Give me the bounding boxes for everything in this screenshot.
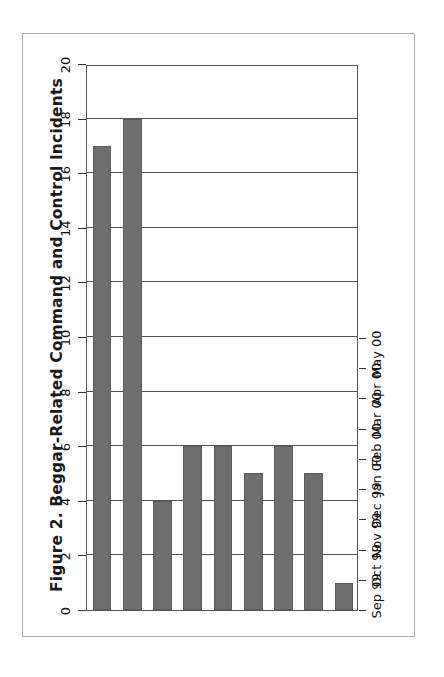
category-axis-tick bbox=[359, 519, 366, 520]
bar bbox=[123, 119, 142, 610]
bar bbox=[274, 446, 293, 610]
value-axis-tick bbox=[78, 64, 86, 65]
value-axis-tick bbox=[78, 282, 86, 283]
value-axis-label: 4 bbox=[58, 498, 73, 506]
category-axis-tick bbox=[359, 368, 366, 369]
value-axis-label: 2 bbox=[58, 552, 73, 560]
value-axis-tick bbox=[78, 119, 86, 120]
chart-canvas: Figure 2. Beggar-Related Command and Con… bbox=[22, 33, 415, 637]
value-axis-tick bbox=[78, 610, 86, 611]
value-axis-label: 16 bbox=[58, 166, 73, 183]
value-axis-tick bbox=[78, 392, 86, 393]
bar bbox=[93, 146, 112, 610]
value-axis-tick bbox=[78, 501, 86, 502]
category-axis-tick bbox=[359, 398, 366, 399]
value-axis-tick bbox=[78, 337, 86, 338]
value-axis-label: 20 bbox=[58, 57, 73, 74]
category-axis-tick bbox=[359, 459, 366, 460]
category-axis-tick bbox=[359, 580, 366, 581]
category-axis: Sep 99Oct 99Nov 99Dec 99Jan 00Feb 00Mar … bbox=[359, 65, 393, 611]
category-axis-tick bbox=[359, 338, 366, 339]
bar bbox=[244, 474, 263, 611]
plot-area bbox=[86, 65, 358, 611]
category-axis-label: May 00 bbox=[369, 330, 384, 378]
value-axis: 20181614121086420 bbox=[66, 65, 88, 611]
figure-container: Figure 2. Beggar-Related Command and Con… bbox=[0, 0, 444, 677]
bar bbox=[214, 446, 233, 610]
category-axis-tick bbox=[359, 550, 366, 551]
category-axis-tick bbox=[359, 429, 366, 430]
value-axis-label: 10 bbox=[58, 330, 73, 347]
value-axis-label: 0 bbox=[58, 607, 73, 615]
bar bbox=[335, 583, 354, 610]
bar bbox=[153, 501, 172, 610]
bar bbox=[304, 474, 323, 611]
category-axis-tick bbox=[359, 610, 366, 611]
value-axis-tick bbox=[78, 446, 86, 447]
bar bbox=[183, 446, 202, 610]
value-axis-label: 14 bbox=[58, 221, 73, 238]
rotated-chart-stage: Figure 2. Beggar-Related Command and Con… bbox=[22, 33, 415, 637]
value-axis-label: 18 bbox=[58, 111, 73, 128]
value-axis-label: 12 bbox=[58, 275, 73, 292]
value-axis-tick bbox=[78, 228, 86, 229]
value-axis-label: 6 bbox=[58, 443, 73, 451]
value-axis-tick bbox=[78, 555, 86, 556]
category-axis-tick bbox=[359, 489, 366, 490]
bar-series bbox=[87, 66, 357, 610]
value-axis-tick bbox=[78, 173, 86, 174]
value-axis-label: 8 bbox=[58, 388, 73, 396]
